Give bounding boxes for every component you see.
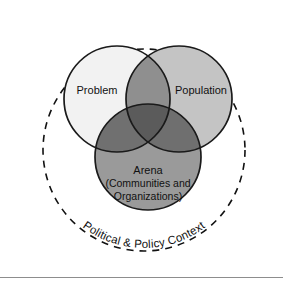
- political-policy-context-label: Political & Policy Context: [81, 219, 207, 250]
- arena-label-line2: (Communities and: [105, 177, 190, 189]
- arena-label-line3: Organizations): [114, 190, 182, 202]
- arena-label-line1: Arena: [133, 164, 163, 176]
- venn-diagram-svg: Problem Population Arena (Communities an…: [0, 0, 283, 286]
- footer-divider: [0, 277, 283, 278]
- problem-label: Problem: [77, 84, 118, 96]
- venn-figure: Problem Population Arena (Communities an…: [0, 0, 283, 286]
- population-label: Population: [175, 84, 227, 96]
